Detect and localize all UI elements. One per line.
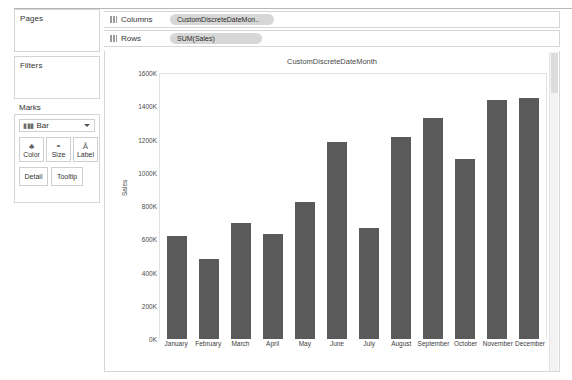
- bar-slot: [353, 74, 385, 339]
- marks-color-label: Color: [23, 151, 40, 158]
- y-axis-ticks: 1600K1400K1200K1000K800K600K400K200K0K: [105, 73, 157, 339]
- bar-mark[interactable]: [167, 236, 187, 339]
- bar-mark[interactable]: [295, 202, 315, 339]
- y-axis-tick-label: 1000K: [111, 169, 157, 176]
- marks-size-button[interactable]: ◓ Size: [46, 137, 71, 162]
- marks-card: Marks ▮▮▮ Bar ♣ Color ◓ Size Å Labe: [14, 103, 100, 209]
- bar-slot: [289, 74, 321, 339]
- bar-mark[interactable]: [263, 234, 283, 339]
- x-axis-tick-label: August: [385, 340, 417, 347]
- bar-mark[interactable]: [199, 259, 219, 339]
- columns-shelf-label: Columns: [121, 15, 165, 24]
- marks-tooltip-label: Tooltip: [57, 173, 77, 180]
- x-axis-tick-label: October: [450, 340, 482, 347]
- y-axis-tick-label: 800K: [111, 203, 157, 210]
- columns-pill[interactable]: CustomDiscreteDateMon..: [170, 14, 274, 25]
- shelf-area: Columns CustomDiscreteDateMon.. Rows SUM…: [104, 9, 572, 49]
- tableau-worksheet: Pages Filters Marks ▮▮▮ Bar ♣ Color ◓ Si: [0, 0, 572, 380]
- bar-mark[interactable]: [359, 228, 379, 339]
- mark-type-dropdown[interactable]: ▮▮▮ Bar: [19, 119, 95, 132]
- y-axis-tick-label: 0K: [111, 336, 157, 343]
- columns-shelf[interactable]: Columns CustomDiscreteDateMon..: [104, 11, 560, 28]
- bar-slot: [417, 74, 449, 339]
- marks-label-label: Label: [77, 151, 94, 158]
- chevron-down-icon[interactable]: [84, 124, 90, 127]
- chart-title: CustomDiscreteDateMonth: [105, 57, 559, 66]
- rows-pill[interactable]: SUM(Sales): [170, 33, 262, 44]
- bar-slot: [257, 74, 289, 339]
- columns-shelf-icon: [110, 16, 117, 23]
- size-icon: ◓: [56, 142, 61, 151]
- y-axis-tick-label: 1400K: [111, 103, 157, 110]
- y-axis-tick-label: 200K: [111, 302, 157, 309]
- x-axis-labels: JanuaryFebruaryMarchAprilMayJuneJulyAugu…: [160, 340, 546, 347]
- x-axis-tick-label: January: [160, 340, 192, 347]
- x-axis-tick-label: May: [289, 340, 321, 347]
- bar-slot: [385, 74, 417, 339]
- pages-card-title: Pages: [15, 10, 99, 23]
- bar-mark[interactable]: [327, 142, 347, 339]
- bar-mark[interactable]: [519, 98, 539, 339]
- plot-area: [161, 74, 545, 339]
- x-axis-tick-label: April: [257, 340, 289, 347]
- bar-mark[interactable]: [487, 100, 507, 339]
- vertical-scrollbar[interactable]: [549, 52, 558, 371]
- worksheet-view: CustomDiscreteDateMonth Sales 1600K1400K…: [104, 51, 560, 372]
- bar-slot: [225, 74, 257, 339]
- bar-mark[interactable]: [391, 137, 411, 339]
- bar-slot: [449, 74, 481, 339]
- marks-detail-label: Detail: [25, 173, 43, 180]
- x-axis-tick-label: December: [514, 340, 546, 347]
- bar-chart-icon: ▮▮▮: [23, 122, 34, 129]
- marks-detail-button[interactable]: Detail: [19, 167, 48, 186]
- marks-card-body: ▮▮▮ Bar ♣ Color ◓ Size Å Label De: [14, 114, 100, 203]
- marks-size-label: Size: [52, 151, 66, 158]
- x-axis-tick-label: June: [321, 340, 353, 347]
- vertical-scrollbar-thumb[interactable]: [551, 53, 558, 93]
- rows-shelf-label: Rows: [121, 34, 165, 43]
- filters-card-title: Filters: [15, 57, 99, 70]
- bar-mark[interactable]: [455, 159, 475, 339]
- color-palette-icon: ♣: [29, 142, 34, 151]
- marks-card-title: Marks: [19, 103, 41, 112]
- marks-color-button[interactable]: ♣ Color: [19, 137, 44, 162]
- bar-slot: [513, 74, 545, 339]
- y-axis-tick-label: 1600K: [111, 70, 157, 77]
- bar-slot: [481, 74, 513, 339]
- filters-card[interactable]: Filters: [14, 56, 100, 99]
- marks-tooltip-button[interactable]: Tooltip: [51, 167, 83, 186]
- bar-slot: [161, 74, 193, 339]
- left-sidebar: Pages Filters Marks ▮▮▮ Bar ♣ Color ◓ Si: [14, 9, 100, 380]
- x-axis-tick-label: July: [353, 340, 385, 347]
- y-axis-tick-label: 1200K: [111, 136, 157, 143]
- pages-card[interactable]: Pages: [14, 9, 100, 52]
- rows-shelf[interactable]: Rows SUM(Sales): [104, 30, 560, 47]
- y-axis-tick-label: 600K: [111, 236, 157, 243]
- bar-mark[interactable]: [231, 223, 251, 339]
- plot-frame: [159, 73, 547, 339]
- y-axis-tick-label: 400K: [111, 269, 157, 276]
- bar-slot: [321, 74, 353, 339]
- x-axis-tick-label: September: [417, 340, 449, 347]
- x-axis-tick-label: March: [224, 340, 256, 347]
- bar-mark[interactable]: [423, 118, 443, 339]
- mark-type-label: Bar: [37, 121, 49, 130]
- marks-label-button[interactable]: Å Label: [73, 137, 98, 162]
- rows-shelf-icon: [110, 35, 117, 42]
- x-axis-tick-label: November: [482, 340, 514, 347]
- label-icon: Å: [83, 142, 88, 151]
- bar-slot: [193, 74, 225, 339]
- x-axis-tick-label: February: [192, 340, 224, 347]
